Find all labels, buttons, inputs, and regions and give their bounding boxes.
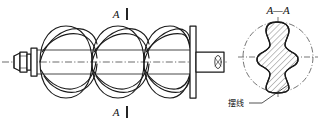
left-shaft-end [14, 48, 37, 76]
section-mark-bottom: A [112, 106, 127, 118]
right-shaft-end [190, 26, 224, 98]
cycloid-callout-label: 摆线 [228, 98, 244, 108]
section-mark-top-label: A [112, 8, 120, 20]
section-mark-top: A [112, 8, 127, 20]
section-view-a-a: A—A 摆线 [228, 4, 318, 108]
section-mark-bottom-label: A [112, 106, 120, 118]
main-elevation-view: A A [2, 8, 228, 118]
section-view-title: A—A [265, 4, 290, 16]
technical-drawing-canvas: A A [0, 0, 322, 122]
screw-rotor-drawing-svg: A A [0, 0, 322, 122]
